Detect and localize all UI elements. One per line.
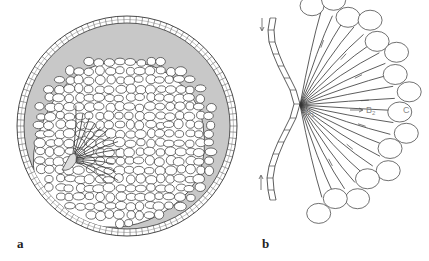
label-b1: B1: [305, 107, 315, 118]
strip-arrows: [259, 18, 264, 190]
epithelial-strip: [267, 18, 300, 200]
panel-b-illustration: B1 B2 C: [0, 0, 429, 240]
label-b2: B2: [366, 105, 376, 116]
panel-label-a: a: [17, 236, 24, 252]
label-c: C: [403, 105, 410, 115]
panel-label-b: b: [262, 236, 269, 252]
figure: /* placeholder, drawn below */ B1 B2 C a…: [0, 0, 429, 261]
